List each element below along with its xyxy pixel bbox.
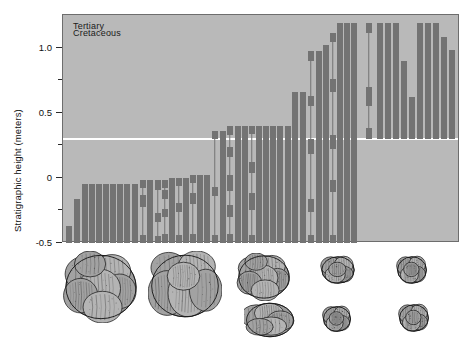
species-range-bar [300,92,305,243]
species-range-bar [242,126,247,243]
fossil-globotruncana-large [62,251,140,323]
occurrence-block [330,79,335,92]
species-range-bar [249,126,254,243]
occurrence-block [227,175,232,191]
occurrence-block [249,193,254,210]
species-range-bar [366,23,371,139]
occurrence-block [308,96,313,106]
y-tick-label: 0 [47,171,52,182]
range-stem [192,175,194,243]
occurrence-block [249,126,254,134]
occurrence-block [366,23,371,33]
plot-area: Tertiary Cretaceous [62,14,459,242]
species-range-bar [103,184,108,243]
species-range-bar [292,92,297,243]
range-stem [142,180,144,243]
species-range-bar [183,178,188,243]
occurrence-block [308,235,313,243]
species-range-bar [132,184,137,243]
species-range-bar [124,184,129,243]
species-range-bar [393,23,398,139]
species-range-bar [351,23,356,243]
species-range-bar [82,184,87,243]
species-range-bar [220,131,225,243]
species-range-bar [330,33,335,243]
occurrence-block [176,203,181,212]
species-range-bar [417,23,422,139]
species-range-bar [277,126,282,243]
occurrence-block [212,187,217,196]
occurrence-block [227,234,232,243]
species-range-bar [256,126,261,243]
species-range-bar [409,97,414,139]
occurrence-block [366,87,371,107]
occurrence-block [162,209,167,217]
species-range-bar [140,180,145,243]
occurrence-block [190,234,195,243]
fossil-guembelitria-tiny-right [398,303,430,333]
species-range-bar [308,51,313,243]
species-range-bar [169,178,174,243]
species-range-bar [377,23,382,139]
species-range-bar [263,126,268,243]
species-range-bar [190,175,195,243]
fossil-globotruncana-ventral [148,251,222,321]
species-range-bar [449,50,454,139]
range-stem [251,126,253,243]
occurrence-block [330,235,335,243]
occurrence-block [308,51,313,60]
occurrence-block [212,131,217,139]
occurrence-block [140,180,145,188]
species-range-bar [117,184,122,243]
range-stem [368,23,370,139]
occurrence-block [155,213,160,222]
plot-inner: Tertiary Cretaceous [63,15,458,241]
species-range-bar [110,184,115,243]
species-range-bar [433,23,438,139]
species-range-bar [155,180,160,243]
epoch-label-cretaceous: Cretaceous [73,28,121,38]
species-range-bar [235,126,240,243]
occurrence-block [330,135,335,149]
occurrence-block [176,178,181,186]
species-range-bar [147,180,152,243]
y-tick-label: 0.5 [39,106,52,117]
occurrence-block [227,205,232,217]
fossil-hedbergella-small [396,255,428,285]
occurrence-block [155,180,160,189]
species-range-bar [212,131,217,243]
occurrence-block [330,180,335,192]
occurrence-block [308,199,313,212]
species-range-bar [197,175,202,243]
species-range-bar [96,184,101,243]
species-range-bar [337,23,342,243]
occurrence-block [330,33,335,42]
occurrence-block [190,175,195,183]
occurrence-block [249,235,254,243]
occurrence-block [140,195,145,207]
species-range-bar [425,23,430,139]
occurrence-block [140,235,145,243]
species-range-bar [385,23,390,139]
y-axis-title: Stratigraphic height (meters) [12,109,23,232]
fossil-spiral-elongate [244,301,296,339]
occurrence-block [162,190,167,199]
species-range-bar [74,199,79,243]
fossil-rugoglobigerina-small [320,255,356,285]
species-range-bar [344,23,349,243]
occurrence-block [162,180,167,188]
y-axis: Stratigraphic height (meters) 1.00.50-0.… [0,0,62,256]
occurrence-block [308,139,313,155]
species-range-bar [66,226,71,243]
species-range-bar [401,61,406,139]
occurrence-block [212,235,217,243]
range-stem [157,180,159,243]
species-range-bar [270,126,275,243]
fossil-illustrations [0,243,470,347]
occurrence-block [176,235,181,243]
occurrence-block [227,147,232,157]
species-range-bar [204,175,209,243]
species-range-bar [323,45,328,243]
occurrence-block [162,234,167,243]
occurrence-block [249,162,254,172]
